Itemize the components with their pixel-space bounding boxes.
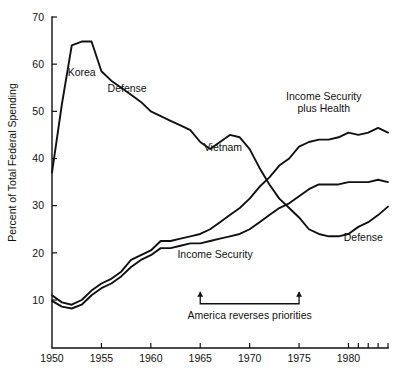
series-label-vietnam-2: Vietnam <box>204 141 243 153</box>
axis-lines <box>52 17 388 348</box>
y-tick-label-30: 30 <box>32 199 44 211</box>
annotation-label: America reverses priorities <box>187 309 311 321</box>
x-tick-label-1975: 1975 <box>287 352 311 364</box>
chart-axes <box>52 17 388 348</box>
series-line-defense <box>52 42 388 237</box>
series-label-income-security-plus-health-3-line2: plus Health <box>297 102 350 114</box>
annotation-arrow-left-icon <box>197 292 203 297</box>
chart-container: 1020304050607019501955196019651970197519… <box>0 0 397 374</box>
x-tick-label-1980: 1980 <box>337 352 361 364</box>
chart-annotation: America reverses priorities <box>187 292 311 321</box>
y-axis-title-text: Percent of Total Federal Spending <box>6 83 18 242</box>
x-tick-label-1960: 1960 <box>139 352 163 364</box>
series-label-defense-1: Defense <box>108 82 147 94</box>
y-tick-label-60: 60 <box>32 58 44 70</box>
series-label-defense-5: Defense <box>344 231 383 243</box>
series-line-income-security-plus-health <box>52 128 388 305</box>
y-tick-label-50: 50 <box>32 105 44 117</box>
chart-series <box>52 42 388 309</box>
y-tick-label-70: 70 <box>32 11 44 23</box>
x-tick-label-1950: 1950 <box>40 352 64 364</box>
y-tick-label-20: 20 <box>32 247 44 259</box>
annotation-arrow-right-icon <box>296 292 302 297</box>
series-label-income-security-4: Income Security <box>177 248 253 260</box>
y-tick-label-10: 10 <box>32 294 44 306</box>
x-tick-label-1970: 1970 <box>238 352 262 364</box>
series-line-income-security <box>52 180 388 309</box>
chart-series-labels: KoreaDefenseVietnamIncome Securityplus H… <box>68 66 383 260</box>
x-tick-label-1955: 1955 <box>90 352 114 364</box>
line-chart: 1020304050607019501955196019651970197519… <box>0 0 397 374</box>
series-label-income-security-plus-health-3-line1: Income Security <box>286 90 362 102</box>
y-tick-label-40: 40 <box>32 152 44 164</box>
x-tick-label-1965: 1965 <box>189 352 213 364</box>
y-axis-title: Percent of Total Federal Spending <box>6 83 18 242</box>
annotation-bracket <box>200 292 299 304</box>
series-label-korea-0: Korea <box>68 66 96 78</box>
chart-ticks <box>52 17 388 348</box>
